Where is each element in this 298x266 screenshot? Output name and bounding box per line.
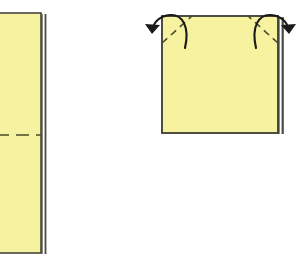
fold-back-arrow-left-head [145, 24, 160, 34]
folded-strip-paper-face [0, 13, 41, 253]
square-sheet-figure [145, 15, 296, 134]
square-sheet-paper-face [162, 16, 278, 133]
origami-diagram: Origami folding step diagram Two-panel o… [0, 0, 298, 266]
folded-strip-figure [0, 13, 46, 254]
left-figure-layer-edges [41, 14, 46, 254]
diagram-canvas [0, 0, 298, 266]
